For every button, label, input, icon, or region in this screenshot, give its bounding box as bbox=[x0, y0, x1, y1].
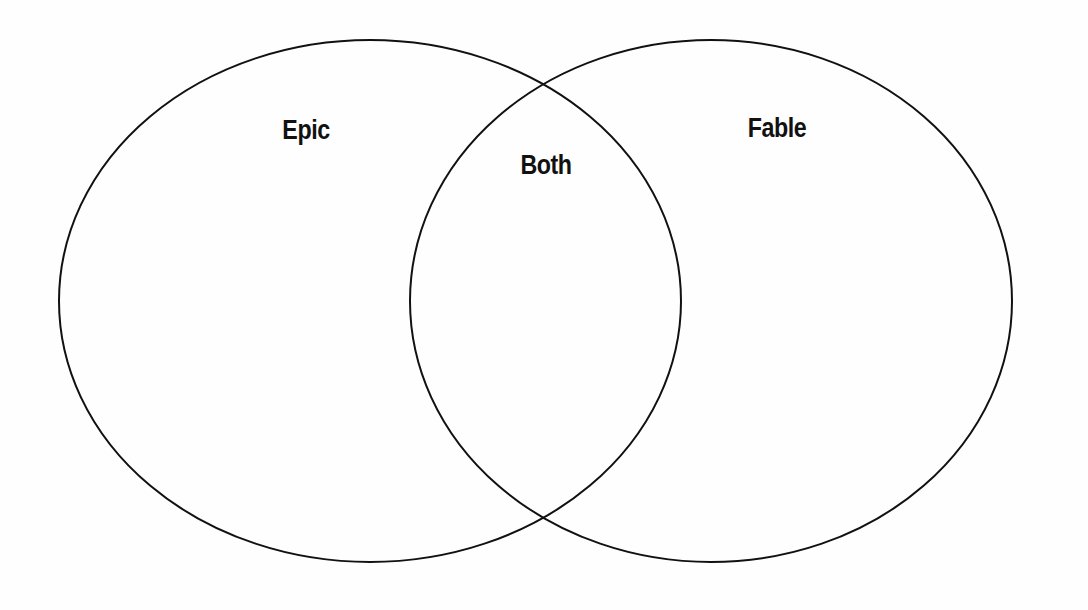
epic-set-label: Epic bbox=[282, 117, 329, 144]
intersection-label: Both bbox=[520, 152, 571, 179]
epic-set-ellipse bbox=[59, 40, 681, 562]
venn-diagram: Epic Both Fable bbox=[0, 0, 1088, 610]
fable-set-ellipse bbox=[410, 40, 1012, 562]
fable-set-label: Fable bbox=[748, 115, 807, 142]
venn-shapes bbox=[0, 0, 1088, 610]
